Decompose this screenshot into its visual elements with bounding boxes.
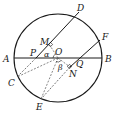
label-a: A bbox=[2, 54, 10, 64]
segment-oc bbox=[17, 58, 58, 77]
label-q: Q bbox=[76, 59, 84, 69]
chord-ne bbox=[41, 67, 70, 99]
label-f: F bbox=[101, 32, 109, 42]
label-p: P bbox=[29, 48, 37, 58]
circle-geometry-diagram: A B O D C F E M P Q N α β bbox=[0, 0, 117, 119]
label-c: C bbox=[8, 78, 15, 88]
chord-pc bbox=[17, 58, 36, 77]
label-n: N bbox=[68, 69, 78, 79]
label-m: M bbox=[39, 37, 50, 47]
segment-oe bbox=[41, 58, 58, 99]
label-o: O bbox=[55, 47, 63, 57]
angle-arc-beta bbox=[56, 61, 61, 62]
label-e: E bbox=[35, 102, 43, 112]
label-beta: β bbox=[57, 63, 63, 72]
label-alpha: α bbox=[44, 50, 50, 59]
chord-fn bbox=[70, 40, 100, 67]
label-d: D bbox=[76, 3, 84, 13]
label-b: B bbox=[104, 54, 112, 64]
